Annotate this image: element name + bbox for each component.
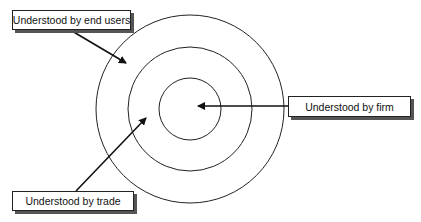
end-users-arrow [72,31,126,63]
diagram-canvas: Understood by end users Understood by tr… [0,0,421,222]
end-users-label: Understood by end users [12,10,131,30]
firm-label: Understood by firm [288,96,411,117]
outer-circle [96,15,284,203]
middle-circle [128,47,252,171]
trade-label: Understood by trade [12,191,134,211]
inner-circle [159,78,221,140]
trade-arrow [76,118,146,191]
